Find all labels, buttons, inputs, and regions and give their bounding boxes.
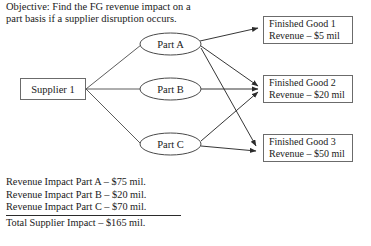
fg-1-revenue: Revenue – $5 mil [269,30,340,41]
fg-3-name: Finished Good 3 [269,136,336,147]
part-c-label: Part C [157,139,184,150]
impact-summary: Revenue Impact Part A – $75 mil. Revenue… [6,176,181,230]
impact-row-part-c: Revenue Impact Part C – $70 mil. [6,201,181,214]
supplier-label: Supplier 1 [31,84,74,95]
impact-row-part-a: Revenue Impact Part A – $75 mil. [6,176,181,189]
edge-part-a-to-fg-2 [201,46,258,86]
clipped-text-row [6,238,206,246]
edge-part-a-to-fg-1 [200,28,258,41]
node-finished-good-1[interactable]: Finished Good 1 Revenue – $5 mil [264,17,353,44]
node-supplier-1[interactable]: Supplier 1 [21,79,86,100]
edge-part-a-to-fg-3 [201,48,256,146]
node-part-c[interactable]: Part C [140,133,201,155]
impact-row-part-b: Revenue Impact Part B – $20 mil. [6,189,181,202]
edge-supplier-to-part-c [86,89,141,144]
part-a-label: Part A [157,39,184,50]
node-finished-good-2[interactable]: Finished Good 2 Revenue – $20 mil [264,76,353,103]
fg-3-revenue: Revenue – $50 mil [269,148,345,159]
node-finished-good-3[interactable]: Finished Good 3 Revenue – $50 mil [264,135,353,162]
edges-parts-to-finished-goods [200,28,258,151]
fg-2-name: Finished Good 2 [269,77,336,88]
edge-part-c-to-fg-3 [201,146,256,151]
impact-row-total: Total Supplier Impact – $165 mil. [6,215,181,230]
edges-supplier-to-parts [86,45,141,144]
fg-1-name: Finished Good 1 [269,18,336,29]
node-part-b[interactable]: Part B [140,78,201,100]
part-b-label: Part B [157,84,184,95]
fg-2-revenue: Revenue – $20 mil [269,89,345,100]
node-part-a[interactable]: Part A [140,33,201,55]
edge-supplier-to-part-a [86,45,141,89]
